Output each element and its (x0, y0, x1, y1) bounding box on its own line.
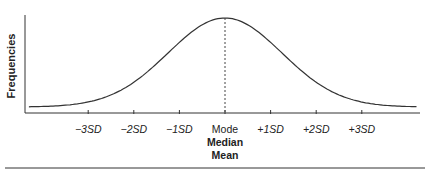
tick-label: +2SD (303, 123, 330, 135)
mode-label: Mode (212, 123, 238, 135)
tick-label: −3SD (75, 123, 102, 135)
tick-label: +1SD (257, 123, 284, 135)
bell-curve (29, 18, 417, 107)
tick-label: −1SD (166, 123, 193, 135)
median-label: Median (207, 136, 243, 148)
mean-label: Mean (212, 149, 239, 161)
y-axis-label: Frequencies (5, 34, 17, 99)
tick-label: −2SD (121, 123, 148, 135)
tick-label: +3SD (349, 123, 376, 135)
normal-distribution-chart: Frequencies −3SD−2SD−1SD+1SD+2SD+3SD Mod… (0, 0, 431, 172)
